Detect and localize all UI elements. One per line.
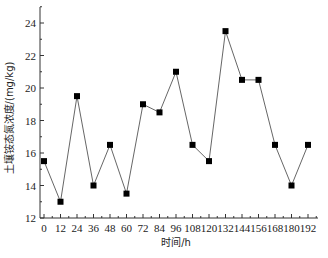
data-point-marker bbox=[206, 158, 212, 164]
y-axis-title: 土壤铵态氮浓度/(mg/kg) bbox=[3, 62, 15, 175]
y-tick-label: 24 bbox=[25, 17, 37, 29]
data-point-marker bbox=[223, 28, 229, 34]
y-tick-label: 12 bbox=[25, 212, 36, 224]
x-tick-label: 108 bbox=[184, 222, 201, 234]
x-tick-label: 36 bbox=[88, 222, 100, 234]
data-point-marker bbox=[190, 142, 196, 148]
y-tick-label: 18 bbox=[25, 115, 37, 127]
x-tick-label: 132 bbox=[217, 222, 234, 234]
data-point-marker bbox=[272, 142, 278, 148]
data-point-marker bbox=[173, 69, 179, 75]
x-tick-label: 84 bbox=[154, 222, 166, 234]
y-tick-label: 14 bbox=[25, 180, 37, 192]
series-markers bbox=[41, 28, 311, 205]
x-axis-title: 时间/h bbox=[161, 236, 191, 248]
x-tick-label: 144 bbox=[234, 222, 251, 234]
x-tick-label: 24 bbox=[72, 222, 84, 234]
x-ticks: 0122436486072849610812013214415616818019… bbox=[41, 214, 316, 234]
x-tick-label: 168 bbox=[267, 222, 284, 234]
data-point-marker bbox=[91, 183, 97, 189]
y-tick-label: 16 bbox=[25, 147, 37, 159]
x-tick-label: 192 bbox=[300, 222, 317, 234]
data-point-marker bbox=[124, 191, 130, 197]
data-point-marker bbox=[107, 142, 113, 148]
x-tick-label: 96 bbox=[171, 222, 183, 234]
axes bbox=[40, 7, 318, 218]
x-tick-label: 12 bbox=[55, 222, 66, 234]
x-tick-label: 60 bbox=[121, 222, 133, 234]
x-tick-label: 120 bbox=[201, 222, 218, 234]
y-tick-label: 20 bbox=[25, 82, 37, 94]
y-ticks: 12141618202224 bbox=[25, 7, 44, 224]
data-point-marker bbox=[58, 199, 64, 205]
data-point-marker bbox=[305, 142, 311, 148]
y-tick-label: 22 bbox=[25, 50, 36, 62]
x-tick-label: 48 bbox=[105, 222, 117, 234]
series-line bbox=[44, 31, 308, 202]
x-tick-label: 0 bbox=[41, 222, 47, 234]
x-tick-label: 156 bbox=[250, 222, 267, 234]
data-point-marker bbox=[157, 109, 163, 115]
x-tick-label: 72 bbox=[138, 222, 149, 234]
data-point-marker bbox=[239, 77, 245, 83]
data-point-marker bbox=[256, 77, 262, 83]
x-tick-label: 180 bbox=[283, 222, 300, 234]
line-chart: 12141618202224 0122436486072849610812013… bbox=[0, 0, 328, 258]
data-point-marker bbox=[41, 158, 47, 164]
data-point-marker bbox=[140, 101, 146, 107]
data-point-marker bbox=[74, 93, 80, 99]
data-point-marker bbox=[289, 183, 295, 189]
